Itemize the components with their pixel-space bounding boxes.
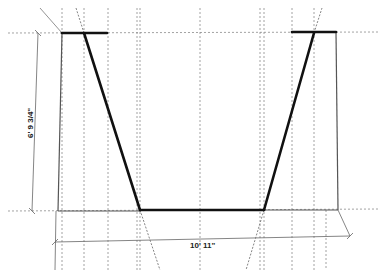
width-dimension-label: 10' 11" bbox=[190, 241, 215, 250]
vertical-guides bbox=[62, 8, 326, 270]
diagram-canvas: 6' 9 3/4" 10' 11" bbox=[0, 0, 387, 278]
horizontal-guides bbox=[8, 32, 380, 211]
outer-frame bbox=[58, 32, 338, 211]
construction-line bbox=[40, 8, 62, 33]
height-dimension-label: 6' 9 3/4" bbox=[26, 108, 35, 138]
trapezoid-sketch: 6' 9 3/4" 10' 11" bbox=[0, 0, 387, 278]
trapezoid-outline bbox=[62, 32, 336, 210]
width-dimension bbox=[52, 210, 353, 270]
